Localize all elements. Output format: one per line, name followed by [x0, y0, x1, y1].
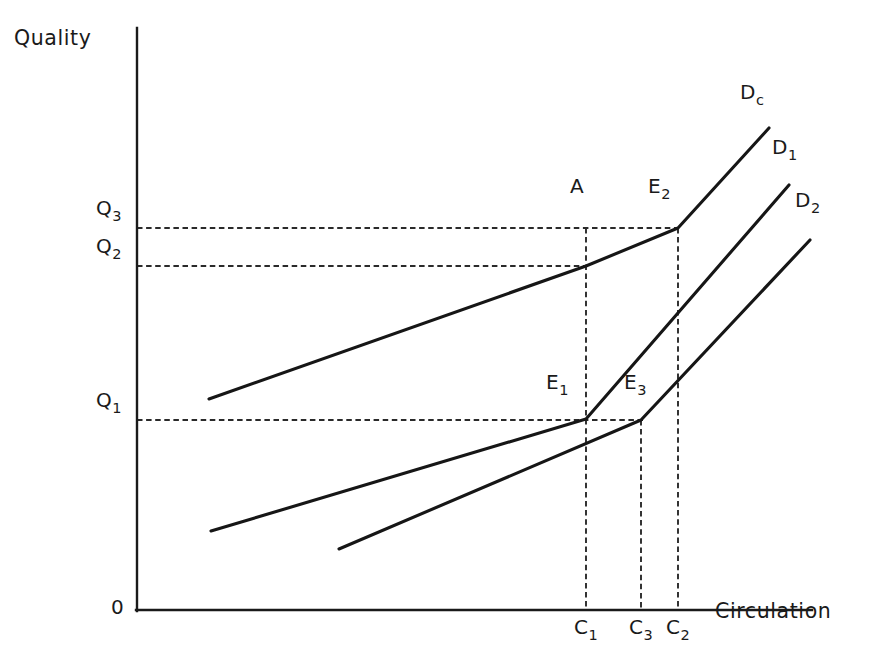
y-tick-q2: Q2: [96, 236, 121, 256]
x-tick-c2-base: C: [666, 615, 680, 639]
y-tick-q2-base: Q: [96, 234, 112, 258]
x-tick-c3: C3: [629, 617, 652, 637]
curve-label-d1-sub: 1: [788, 147, 797, 163]
point-label-a-base: A: [570, 174, 584, 198]
guide-lines-vertical: [586, 228, 678, 610]
y-axis-title: Quality: [14, 28, 91, 49]
curve-dc: [209, 128, 769, 399]
x-tick-c3-sub: 3: [643, 627, 652, 643]
x-tick-c1-base: C: [574, 615, 588, 639]
y-tick-q1-sub: 1: [112, 400, 121, 416]
curve-label-dc: Dc: [740, 82, 763, 102]
curve-label-d1-base: D: [772, 135, 787, 159]
x-tick-c1-sub: 1: [588, 627, 597, 643]
x-axis-title: Circulation: [715, 601, 831, 622]
point-label-e2-base: E: [648, 174, 661, 198]
point-label-e2: E2: [648, 176, 670, 196]
x-tick-c1: C1: [574, 617, 597, 637]
guide-lines-horizontal: [137, 228, 678, 420]
point-label-e2-sub: 2: [661, 186, 670, 202]
curve-label-dc-sub: c: [756, 92, 764, 108]
demand-curves: [209, 128, 810, 549]
x-tick-c2: C2: [666, 617, 689, 637]
point-label-e3-base: E: [624, 370, 637, 394]
x-tick-c3-base: C: [629, 615, 643, 639]
point-label-a: A: [570, 176, 584, 196]
y-tick-q3-base: Q: [96, 196, 112, 220]
curve-label-d1: D1: [772, 137, 797, 157]
point-label-e1: E1: [546, 372, 568, 392]
point-label-e1-base: E: [546, 370, 559, 394]
point-label-e3: E3: [624, 372, 646, 392]
point-label-e1-sub: 1: [559, 382, 568, 398]
curve-label-dc-base: D: [740, 80, 755, 104]
y-tick-q1-base: Q: [96, 388, 112, 412]
curve-label-d2-base: D: [795, 188, 810, 212]
x-tick-c2-sub: 2: [680, 627, 689, 643]
y-tick-q3: Q3: [96, 198, 121, 218]
curve-label-d2: D2: [795, 190, 820, 210]
y-tick-q3-sub: 3: [112, 208, 121, 224]
curve-d2: [339, 240, 810, 549]
figure-root: Quality Circulation 0 Q3 Q2 Q1 C1 C3 C2 …: [0, 0, 884, 659]
origin-label: 0: [111, 597, 124, 617]
curve-label-d2-sub: 2: [811, 200, 820, 216]
y-tick-q1: Q1: [96, 390, 121, 410]
point-label-e3-sub: 3: [637, 382, 646, 398]
y-tick-q2-sub: 2: [112, 246, 121, 262]
